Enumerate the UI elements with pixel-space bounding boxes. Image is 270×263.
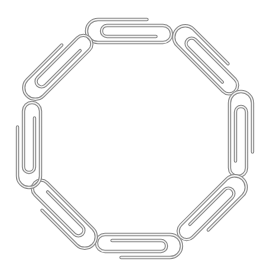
paperclip-right [230,92,253,177]
paperclip-octagon-image: Eight silver paperclips linked together … [0,0,270,263]
paperclip-top-right [169,21,245,97]
paperclip-bottom-right [175,171,251,247]
paperclip-bottom-left [25,177,101,253]
paperclip-ring [0,0,270,263]
paperclip-top-left [19,28,95,104]
paperclip-left [18,102,41,187]
paperclip-top [87,20,172,43]
paperclip-bottom [96,235,181,258]
